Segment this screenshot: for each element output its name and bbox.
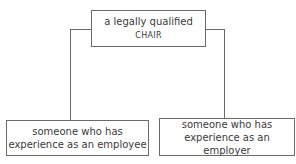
connector-right-horizontal bbox=[205, 29, 225, 30]
employee-node: someone who has experience as an employe… bbox=[6, 120, 149, 156]
chair-node-smallcaps: CHAIR bbox=[135, 31, 162, 40]
employee-node-line1: someone who has bbox=[32, 125, 123, 138]
employer-node-line1: someone who has bbox=[182, 118, 273, 131]
chair-node-text: a legally qualified bbox=[104, 16, 193, 27]
connector-left-horizontal bbox=[70, 29, 92, 30]
chair-node-label: a legally qualified CHAIR bbox=[92, 15, 205, 42]
connector-right-vertical bbox=[224, 29, 225, 118]
employer-node-line2: experience as an employer bbox=[160, 131, 294, 157]
employee-node-line2: experience as an employee bbox=[8, 138, 146, 151]
connector-left-vertical bbox=[70, 29, 71, 120]
chair-node: a legally qualified CHAIR bbox=[91, 10, 206, 47]
employer-node: someone who has experience as an employe… bbox=[159, 118, 295, 156]
